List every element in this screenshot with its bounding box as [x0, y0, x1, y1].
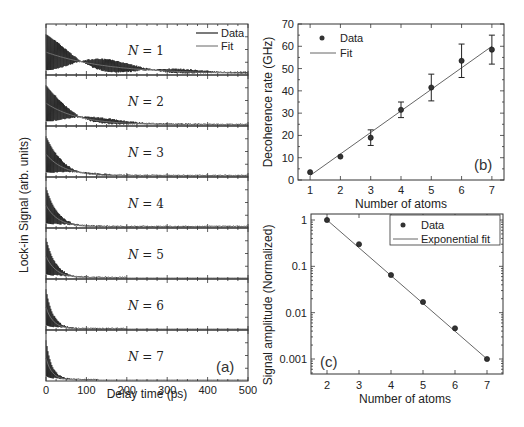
y-tick-label: 1 — [301, 214, 307, 226]
legend-fit-label: Fit — [340, 47, 352, 59]
panel-c-legend: Data Exponential fit — [390, 215, 500, 245]
data-point — [398, 107, 403, 112]
legend-fit-label: Exponential fit — [421, 233, 490, 245]
data-trace — [46, 289, 127, 329]
x-tick-label: 3 — [356, 379, 362, 391]
data-point — [420, 299, 425, 304]
x-tick-label: 500 — [239, 384, 257, 396]
x-tick-label: 1 — [307, 184, 313, 196]
x-tick-label: 3 — [368, 184, 374, 196]
x-tick-label: 400 — [198, 384, 216, 396]
panel-a-tag: (a) — [216, 358, 234, 375]
panel-b-legend: Data Fit — [310, 32, 364, 59]
data-point — [459, 58, 464, 63]
decay-trace-panel: N = 2 — [46, 75, 248, 126]
data-point — [489, 47, 494, 52]
data-point — [484, 356, 489, 361]
data-point — [356, 242, 361, 247]
n-label: N = 2 — [127, 95, 164, 109]
x-tick-label: 2 — [324, 379, 330, 391]
panel-c-x-axis-label: Number of atoms — [359, 392, 451, 406]
panel-b-decoherence-rate: 0102030405060701234567 — [282, 18, 504, 196]
x-tick-label: 6 — [452, 379, 458, 391]
legend-data-label: Data — [221, 27, 245, 39]
panel-a-decay-traces: N = 1N = 2N = 3N = 4N = 5N = 6N = 701002… — [43, 24, 257, 396]
x-tick-label: 7 — [484, 379, 490, 391]
data-trace — [46, 238, 127, 278]
y-tick-label: 40 — [282, 85, 294, 97]
y-tick-label: 0.1 — [292, 260, 307, 272]
data-point — [452, 326, 457, 331]
x-tick-label: 7 — [489, 184, 495, 196]
x-tick-label: 5 — [420, 379, 426, 391]
x-tick-label: 5 — [428, 184, 434, 196]
x-tick-label: 2 — [337, 184, 343, 196]
y-tick-label: 70 — [282, 18, 294, 30]
legend-data-label: Data — [421, 219, 445, 231]
x-tick-label: 4 — [388, 379, 394, 391]
panel-a-legend: Data Fit — [196, 27, 245, 52]
panel-c-tag: (c) — [320, 353, 338, 370]
decay-trace-panel: N = 4 — [46, 177, 248, 228]
y-tick-label: 30 — [282, 107, 294, 119]
figure: N = 1N = 2N = 3N = 4N = 5N = 6N = 701002… — [0, 0, 524, 427]
panel-a-y-axis-label: Lock-in Signal (arb. units) — [17, 137, 31, 273]
n-label: N = 6 — [127, 299, 164, 313]
decay-trace-panel: N = 6 — [46, 279, 248, 330]
y-tick-label: 60 — [282, 40, 294, 52]
x-tick-label: 6 — [459, 184, 465, 196]
n-label: N = 3 — [127, 146, 164, 160]
y-tick-label: 10 — [282, 152, 294, 164]
legend-data-marker — [401, 223, 406, 228]
y-tick-label: 50 — [282, 63, 294, 75]
y-tick-label: 0.001 — [279, 353, 307, 365]
panel-a-x-axis-label: Delay time (ps) — [107, 387, 188, 401]
panel-b-x-axis-label: Number of atoms — [355, 197, 447, 211]
y-tick-label: 0 — [288, 174, 294, 186]
y-tick-label: 0.01 — [286, 307, 307, 319]
data-point — [338, 154, 343, 159]
decay-trace-panel: N = 1 — [46, 24, 248, 75]
data-point — [368, 135, 373, 140]
y-tick-label: 20 — [282, 129, 294, 141]
n-label: N = 7 — [127, 350, 164, 364]
n-label: N = 1 — [127, 44, 164, 58]
legend-data-marker — [320, 36, 325, 41]
n-label: N = 4 — [127, 197, 164, 211]
panel-b-tag: (b) — [474, 156, 492, 173]
legend-data-label: Data — [340, 32, 364, 44]
x-tick-label: 4 — [398, 184, 404, 196]
n-label: N = 5 — [127, 248, 164, 262]
panel-b-y-axis-label: Decoherence rate (GHz) — [261, 37, 275, 168]
decay-trace-panel: N = 3 — [46, 126, 248, 177]
legend-fit-label: Fit — [221, 40, 233, 52]
panel-c-y-axis-label: Signal amplitude (Normalized) — [261, 225, 275, 386]
data-point — [324, 217, 329, 222]
data-point — [429, 85, 434, 90]
data-point — [308, 170, 313, 175]
x-tick-label: 100 — [77, 384, 95, 396]
x-tick-label: 0 — [43, 384, 49, 396]
data-point — [388, 272, 393, 277]
decay-trace-panel: N = 5 — [46, 228, 248, 279]
